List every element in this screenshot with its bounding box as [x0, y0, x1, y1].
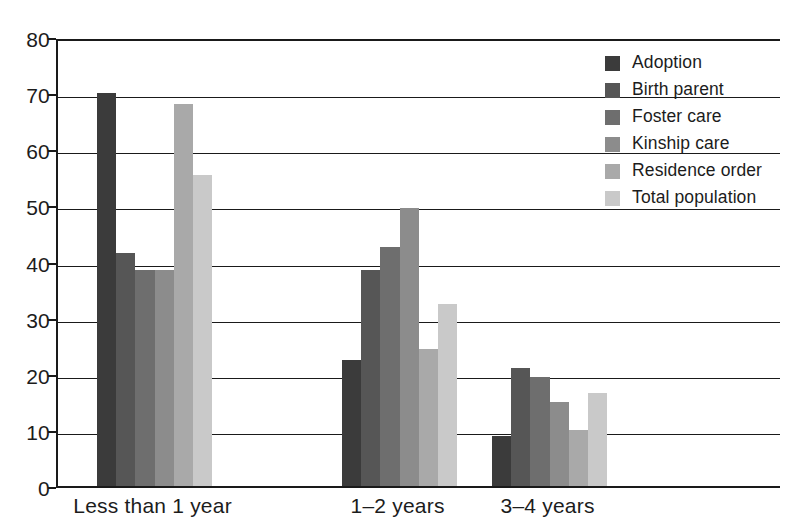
y-tick-mark-70 — [48, 94, 56, 96]
legend-swatch-icon — [605, 56, 620, 71]
y-tick-mark-0 — [48, 487, 56, 489]
y-tick-label-60: 60 — [6, 141, 50, 162]
bar — [530, 377, 549, 486]
x-tick-label: 1–2 years — [351, 495, 445, 516]
y-tick-label-30: 30 — [6, 309, 50, 330]
legend-label: Birth parent — [632, 81, 724, 99]
bar — [569, 430, 588, 486]
legend-label: Total population — [632, 189, 756, 207]
bar-group — [97, 41, 212, 486]
bar-group — [342, 41, 457, 486]
y-tick-mark-20 — [48, 375, 56, 377]
legend-swatch-icon — [605, 164, 620, 179]
y-axis: 01020304050607080 — [0, 0, 50, 530]
legend-swatch-icon — [605, 191, 620, 206]
bar — [400, 208, 419, 486]
bar-group — [492, 41, 607, 486]
bar — [342, 360, 361, 486]
plot-area: AdoptionBirth parentFoster careKinship c… — [56, 39, 780, 488]
legend-swatch-icon — [605, 110, 620, 125]
bar — [492, 436, 511, 487]
bar — [97, 93, 116, 486]
bar — [361, 270, 380, 486]
bar — [116, 253, 135, 486]
y-tick-mark-10 — [48, 431, 56, 433]
bar — [588, 393, 607, 486]
legend-item: Kinship care — [605, 134, 762, 154]
legend-label: Adoption — [632, 54, 702, 72]
bar — [155, 270, 174, 486]
y-tick-mark-60 — [48, 150, 56, 152]
legend-item: Birth parent — [605, 80, 762, 100]
x-tick-label: Less than 1 year — [73, 495, 231, 516]
legend-label: Foster care — [632, 108, 722, 126]
legend-swatch-icon — [605, 137, 620, 152]
y-tick-mark-30 — [48, 319, 56, 321]
y-tick-mark-50 — [48, 206, 56, 208]
legend-swatch-icon — [605, 83, 620, 98]
bar — [193, 175, 212, 486]
legend-item: Foster care — [605, 107, 762, 127]
legend-label: Residence order — [632, 162, 762, 180]
y-tick-mark-40 — [48, 263, 56, 265]
bar — [380, 247, 399, 486]
y-tick-label-70: 70 — [6, 85, 50, 106]
bar — [550, 402, 569, 486]
y-tick-mark-80 — [48, 38, 56, 40]
legend-item: Total population — [605, 188, 762, 208]
y-tick-label-40: 40 — [6, 253, 50, 274]
bar — [419, 349, 438, 487]
x-tick-label: 3–4 years — [501, 495, 595, 516]
bar-chart: 01020304050607080 AdoptionBirth parentFo… — [0, 0, 789, 530]
y-tick-label-10: 10 — [6, 421, 50, 442]
y-tick-label-80: 80 — [6, 29, 50, 50]
bar — [135, 270, 154, 486]
bar — [438, 304, 457, 486]
legend-item: Residence order — [605, 161, 762, 181]
legend-label: Kinship care — [632, 135, 730, 153]
y-tick-label-0: 0 — [6, 478, 50, 499]
bar — [511, 368, 530, 486]
chart-legend: AdoptionBirth parentFoster careKinship c… — [605, 53, 762, 208]
y-tick-label-20: 20 — [6, 365, 50, 386]
bar — [174, 104, 193, 486]
legend-item: Adoption — [605, 53, 762, 73]
y-tick-label-50: 50 — [6, 197, 50, 218]
